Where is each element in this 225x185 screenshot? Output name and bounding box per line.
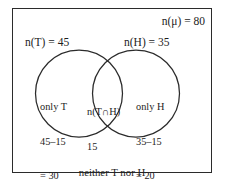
intersection-line-1: n(T∩H) xyxy=(87,106,131,118)
set-h-label: n(H) = 35 xyxy=(124,36,169,49)
set-t-label: n(T) = 45 xyxy=(25,36,69,49)
only-t-line-1: only T xyxy=(40,101,82,113)
venn-diagram-figure: n(μ) = 80 n(T) = 45 n(H) = 35 only T 45–… xyxy=(0,0,225,185)
universal-set-label: n(μ) = 80 xyxy=(162,15,205,28)
neither-region-text: neither T nor H 80–65 = 15 xyxy=(12,141,212,185)
only-h-line-1: only H xyxy=(136,101,178,113)
neither-line-1: neither T nor H xyxy=(12,166,212,179)
